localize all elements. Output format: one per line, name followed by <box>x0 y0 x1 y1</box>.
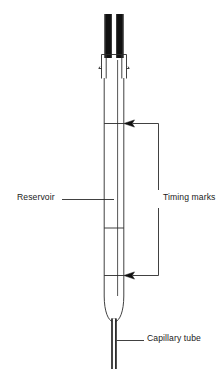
bulb-bottom <box>104 296 124 322</box>
viscometer-figure: Reservoir Timing marks Capillary tube <box>0 0 224 374</box>
viscometer-drawing <box>0 0 224 374</box>
label-timing-marks: Timing marks <box>163 193 215 202</box>
label-capillary-tube: Capillary tube <box>147 334 201 343</box>
upper-tube-left <box>105 14 113 58</box>
upper-tube-right <box>116 14 124 58</box>
label-reservoir: Reservoir <box>17 193 55 202</box>
collar <box>99 55 129 79</box>
reservoir-body <box>104 60 124 296</box>
capillary-tube <box>111 319 116 370</box>
upper-tube-gap <box>112 14 116 58</box>
timing-marks-bracket <box>133 124 159 276</box>
